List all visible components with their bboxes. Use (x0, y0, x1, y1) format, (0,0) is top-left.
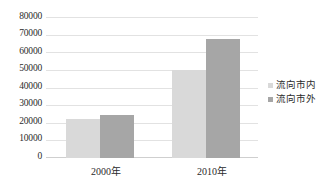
y-tick-label: 10000 (0, 134, 42, 143)
bar-2010-outer (206, 39, 240, 158)
bar-group-2000 (66, 17, 142, 158)
y-tick-label: 50000 (0, 64, 42, 73)
legend-swatch-dark-icon (268, 97, 273, 102)
bar-chart: 80000 70000 60000 50000 40000 30000 2000… (0, 0, 326, 186)
legend-item-inner[interactable]: 流向市内 (268, 80, 316, 90)
bar-2000-outer (100, 115, 134, 158)
legend-swatch-light-icon (268, 83, 273, 88)
bar-2000-inner (66, 119, 100, 158)
y-tick-label: 80000 (0, 12, 42, 21)
y-tick-label: 30000 (0, 99, 42, 108)
legend: 流向市内 流向市外 (268, 80, 316, 104)
legend-item-outer[interactable]: 流向市外 (268, 94, 316, 104)
plot-area (46, 17, 258, 158)
y-tick-label: 70000 (0, 29, 42, 38)
y-tick-label: 20000 (0, 117, 42, 126)
legend-label-outer: 流向市外 (276, 94, 316, 104)
y-tick-label: 40000 (0, 82, 42, 91)
y-tick-label: 60000 (0, 47, 42, 56)
y-tick-label: 0 (0, 152, 42, 161)
legend-label-inner: 流向市内 (276, 80, 316, 90)
x-tick-label-2000: 2000年 (66, 163, 146, 178)
x-tick-label-2010: 2010年 (172, 163, 252, 178)
bar-group-2010 (172, 17, 248, 158)
bar-2010-inner (172, 70, 206, 158)
